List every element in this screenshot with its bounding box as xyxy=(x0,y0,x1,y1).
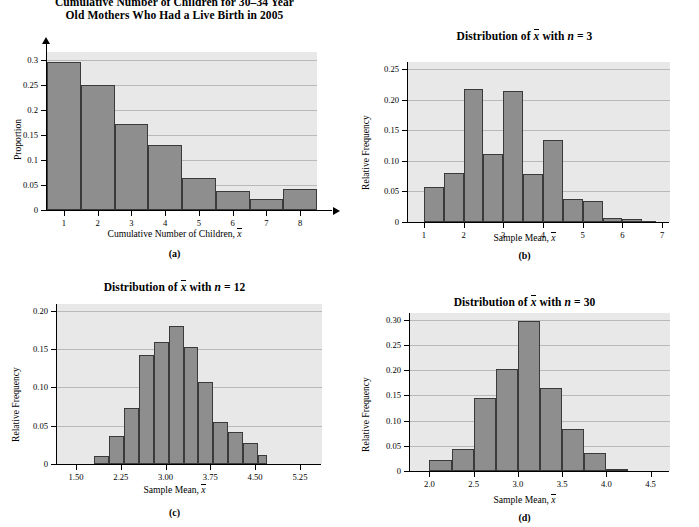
y-axis-line xyxy=(46,44,47,210)
y-axis-line xyxy=(56,304,57,464)
histogram-bar xyxy=(228,432,243,464)
panel-c-caption: (c) xyxy=(0,507,349,518)
y-axis-tick-label: 0.2 xyxy=(8,105,38,115)
histogram-bar xyxy=(109,436,124,464)
panel-b-xaxis-title: Sample Mean, x xyxy=(350,232,699,243)
histogram-bar xyxy=(94,456,109,464)
y-axis-tick-label: 0.15 xyxy=(18,344,48,354)
panel-a-caption: (a) xyxy=(0,248,349,259)
panel-b-xaxis-title-text: Sample Mean, xyxy=(493,232,551,243)
panel-d-yaxis-title: Relative Frequency xyxy=(360,377,371,452)
y-axis-tick xyxy=(51,464,56,465)
gridline xyxy=(408,130,670,131)
y-axis-tick-label: 0.3 xyxy=(8,55,38,65)
y-axis-tick-label: 0.30 xyxy=(371,315,401,325)
x-bar-symbol: x xyxy=(237,228,241,239)
panel-d-xaxis-title-text: Sample Mean, xyxy=(493,494,551,505)
y-axis-tick xyxy=(41,60,46,61)
panel-a-yaxis-title: Proportion xyxy=(12,119,23,160)
y-axis-tick-label: 0.15 xyxy=(369,125,399,135)
panel-a-title: Cumulative Number of Children for 30–34 … xyxy=(0,0,349,22)
panel-c-xaxis-title: Sample Mean, x xyxy=(0,484,349,495)
histogram-bar xyxy=(243,443,258,464)
histogram-bar xyxy=(182,178,216,210)
y-axis-tick xyxy=(51,387,56,388)
panel-c: Distribution of x with n = 12 00.050.100… xyxy=(0,264,349,527)
x-axis-tick-label: 4.5 xyxy=(645,479,656,489)
histogram-bar xyxy=(583,201,603,222)
y-axis-tick xyxy=(404,395,409,396)
panel-c-title-eq: = 12 xyxy=(221,281,245,293)
panel-a-xaxis-title: Cumulative Number of Children, x xyxy=(0,228,349,239)
histogram-bar xyxy=(213,422,228,464)
y-axis-tick-label: 0.20 xyxy=(371,365,401,375)
histogram-bar xyxy=(518,321,540,471)
panel-a-plot-area: 00.050.10.150.20.250.312345678 xyxy=(47,52,317,210)
x-axis-tick-label: 1 xyxy=(62,218,66,228)
x-axis-tick xyxy=(518,472,519,477)
x-axis-tick xyxy=(662,223,663,228)
panel-b-yaxis-title: Relative Frequency xyxy=(360,115,371,190)
y-axis-tick-label: 0 xyxy=(371,466,401,476)
histogram-bar xyxy=(563,199,583,222)
panel-d-caption: (d) xyxy=(350,512,699,523)
x-axis-tick xyxy=(424,223,425,228)
y-axis-tick xyxy=(41,210,46,211)
panel-b-title: Distribution of x with n = 3 xyxy=(350,30,699,43)
y-axis-tick xyxy=(41,85,46,86)
x-axis-tick-label: 4.50 xyxy=(248,472,263,482)
x-axis-tick-label: 3.00 xyxy=(158,472,173,482)
y-axis-tick-label: 0.05 xyxy=(18,421,48,431)
y-axis-tick-label: 0.25 xyxy=(371,340,401,350)
x-axis-tick-label: 2.5 xyxy=(468,479,479,489)
y-axis-tick-label: 0.05 xyxy=(8,180,38,190)
y-axis-tick-label: 0.10 xyxy=(371,416,401,426)
y-axis-tick xyxy=(402,100,407,101)
histogram-bar xyxy=(184,347,199,464)
panel-d-title: Distribution of x with n = 30 xyxy=(350,296,699,309)
y-axis-tick xyxy=(404,345,409,346)
histogram-bar xyxy=(429,460,451,471)
histogram-bar xyxy=(562,429,584,471)
x-axis-tick xyxy=(76,465,77,470)
y-axis-tick-label: 0.20 xyxy=(18,306,48,316)
y-axis-tick-label: 0.25 xyxy=(8,80,38,90)
y-axis-tick xyxy=(41,160,46,161)
histogram-bar xyxy=(169,326,184,464)
histogram-bar xyxy=(47,62,81,210)
histogram-bar xyxy=(496,369,518,471)
gridline xyxy=(408,161,670,162)
y-axis-tick-label: 0.10 xyxy=(369,156,399,166)
histogram-bar xyxy=(452,449,474,471)
histogram-bar xyxy=(543,140,563,222)
x-axis-tick xyxy=(562,472,563,477)
y-axis-tick xyxy=(41,185,46,186)
histogram-bar xyxy=(483,154,503,222)
panel-b-plot-area: 00.050.100.150.200.251234567 xyxy=(408,62,670,222)
x-axis-tick-label: 6 xyxy=(230,218,234,228)
y-axis-tick xyxy=(404,471,409,472)
y-axis-tick xyxy=(402,161,407,162)
y-axis-tick xyxy=(41,110,46,111)
y-axis-tick-label: 0.20 xyxy=(369,95,399,105)
gridline xyxy=(47,60,317,61)
panel-a-xaxis-title-text: Cumulative Number of Children, xyxy=(107,228,237,239)
y-axis-tick xyxy=(402,130,407,131)
panel-c-title: Distribution of x with n = 12 xyxy=(0,281,349,294)
y-axis-tick xyxy=(51,311,56,312)
panel-a-title-line1: Cumulative Number of Children for 30–34 … xyxy=(55,0,294,8)
histogram-bar xyxy=(115,124,149,210)
panel-a-title-line2: Old Mothers Who Had a Live Birth in 2005 xyxy=(66,9,284,21)
x-axis-tick xyxy=(651,472,652,477)
y-axis-tick xyxy=(404,421,409,422)
y-axis-tick-label: 0.25 xyxy=(369,64,399,74)
y-axis-tick-label: 0.15 xyxy=(371,390,401,400)
histogram-bar xyxy=(464,89,484,222)
x-axis-tick xyxy=(464,223,465,228)
histogram-bar xyxy=(258,455,267,464)
x-axis-tick xyxy=(300,465,301,470)
y-axis-tick xyxy=(404,370,409,371)
x-axis-tick-label: 5.25 xyxy=(292,472,307,482)
x-axis-tick xyxy=(503,223,504,228)
histogram-bar xyxy=(584,453,606,471)
